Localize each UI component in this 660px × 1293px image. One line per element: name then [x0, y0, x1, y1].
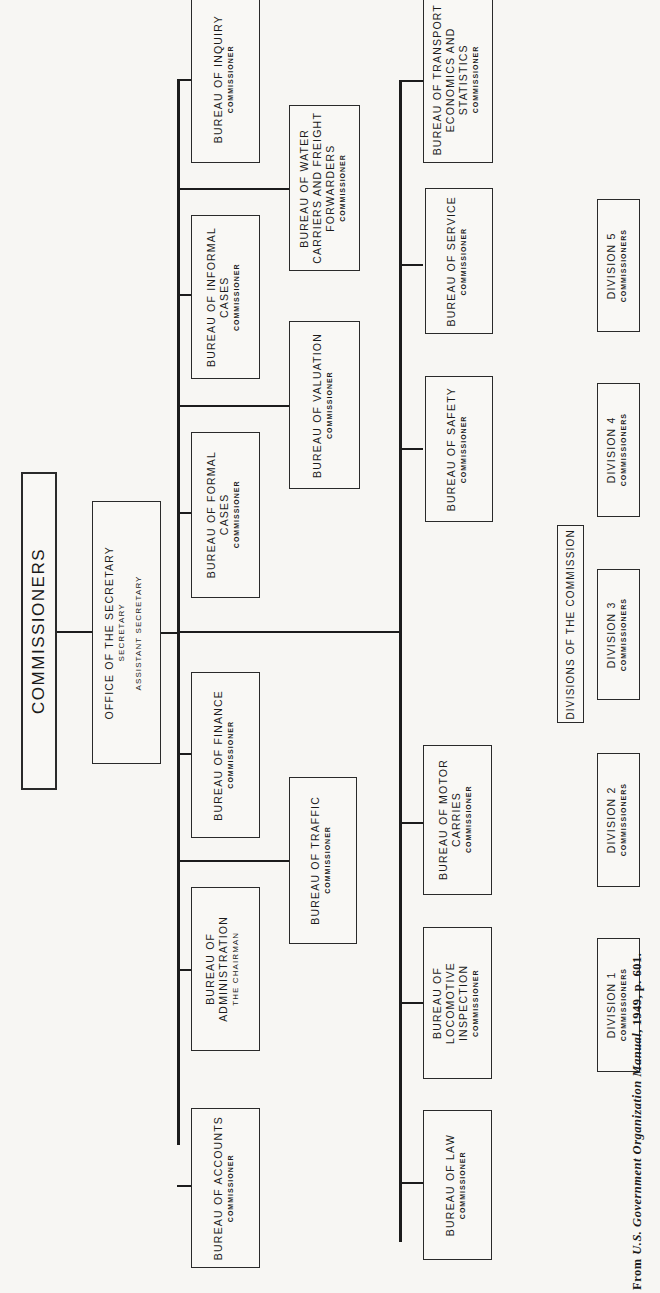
trunk-tier1 [177, 79, 180, 1145]
bureau-locomotive-label-1: BUREAU OF [431, 967, 444, 1039]
branch-valuation [177, 405, 289, 407]
bureau-admin-head: THE CHAIRMAN [230, 932, 242, 1006]
division-3-label: DIVISION 3 [605, 601, 618, 668]
branch-traffic [177, 860, 289, 862]
division-5-members: COMMISSIONERS [618, 229, 629, 302]
org-chart: COMMISSIONERS OFFICE OF THE SECRETARY SE… [0, 0, 660, 1293]
stub-finance [177, 753, 192, 755]
bureau-admin-label-2: ADMINISTRATION [217, 916, 230, 1022]
divisions-title: DIVISIONS OF THE COMMISSION [564, 529, 577, 720]
connector-secretary-trunk [160, 632, 178, 634]
stub-transport [399, 80, 423, 82]
stub-informal [177, 294, 192, 296]
division-2-members: COMMISSIONERS [618, 783, 629, 856]
division-2-box: DIVISION 2 COMMISSIONERS [597, 753, 640, 887]
bureau-valuation-label: BUREAU OF VALUATION [311, 333, 324, 478]
stub-motor [399, 822, 423, 824]
bureau-informal-label-2: CASES [218, 276, 231, 318]
bureau-finance-box: BUREAU OF FINANCE COMMISSIONER [191, 672, 260, 838]
bureau-safety-box: BUREAU OF SAFETY COMMISSIONER [425, 376, 493, 522]
secretary-officer-1: SECRETARY [116, 603, 128, 661]
bureau-locomotive-label-2: LOCOMOTIVE [444, 962, 457, 1044]
division-1-members: COMMISSIONERS [618, 968, 629, 1041]
bureau-transport-label-2: ECONOMICS AND [444, 27, 457, 132]
stub-inquiry [177, 79, 192, 81]
bureau-admin-label-1: BUREAU OF [204, 933, 217, 1005]
bureau-informal-head: COMMISSIONER [231, 263, 242, 331]
division-4-box: DIVISION 4 COMMISSIONERS [597, 383, 640, 517]
bureau-motor-label-2: CARRIES [450, 792, 463, 847]
caption-suffix: , 1949, p. 601. [630, 953, 644, 1033]
bureau-finance-label: BUREAU OF FINANCE [212, 690, 225, 821]
bureau-service-head: COMMISSIONER [458, 227, 469, 295]
stub-formal [177, 512, 192, 514]
bureau-valuation-box: BUREAU OF VALUATION COMMISSIONER [289, 321, 360, 489]
bureau-informal-cases-box: BUREAU OF INFORMAL CASES COMMISSIONER [191, 215, 260, 379]
bureau-informal-label-1: BUREAU OF INFORMAL [205, 227, 218, 367]
bureau-valuation-head: COMMISSIONER [324, 371, 335, 439]
division-3-members: COMMISSIONERS [618, 598, 629, 671]
stub-law [399, 1182, 423, 1184]
bureau-formal-head: COMMISSIONER [231, 481, 242, 549]
source-caption: From U.S. Government Organization Manual… [630, 953, 645, 1290]
secretary-title: OFFICE OF THE SECRETARY [103, 546, 116, 719]
bureau-transport-economics-box: BUREAU OF TRANSPORT ECONOMICS AND STATIS… [423, 0, 493, 163]
bureau-formal-label-1: BUREAU OF FORMAL [205, 451, 218, 578]
bureau-administration-box: BUREAU OF ADMINISTRATION THE CHAIRMAN [191, 887, 260, 1051]
division-2-label: DIVISION 2 [605, 787, 618, 854]
division-4-label: DIVISION 4 [605, 417, 618, 484]
bureau-water-label-2: CARRIERS AND FREIGHT [311, 112, 324, 264]
bureau-traffic-label: BUREAU OF TRAFFIC [309, 796, 322, 925]
stub-service [399, 264, 423, 266]
bureau-traffic-box: BUREAU OF TRAFFIC COMMISSIONER [289, 777, 357, 944]
bureau-accounts-label: BUREAU OF ACCOUNTS [212, 1116, 225, 1260]
secretary-officer-2: ASSISTANT SECRETARY [133, 575, 145, 690]
commissioners-label: COMMISSIONERS [29, 548, 49, 714]
commissioners-box: COMMISSIONERS [21, 472, 57, 790]
bureau-formal-label-2: CASES [218, 494, 231, 536]
stub-safety [399, 448, 423, 450]
bureau-water-carriers-box: BUREAU OF WATER CARRIERS AND FREIGHT FOR… [289, 105, 360, 271]
bureau-service-label: BUREAU OF SERVICE [445, 196, 458, 326]
bureau-water-head: COMMISSIONER [337, 154, 348, 222]
bureau-motor-carries-box: BUREAU OF MOTOR CARRIES COMMISSIONER [423, 745, 492, 895]
bureau-finance-head: COMMISSIONER [225, 721, 236, 789]
bureau-inquiry-label: BUREAU OF INQUIRY [212, 15, 225, 143]
bureau-law-label: BUREAU OF LAW [444, 1134, 457, 1236]
bureau-transport-label-1: BUREAU OF TRANSPORT [431, 4, 444, 155]
caption-prefix: From [630, 1255, 644, 1290]
stub-admin [177, 969, 192, 971]
connector-commissioners-secretary [56, 631, 92, 633]
office-of-secretary-box: OFFICE OF THE SECRETARY SECRETARY ASSIST… [92, 501, 161, 764]
stub-accounts [177, 1185, 192, 1187]
division-3-box: DIVISION 3 COMMISSIONERS [597, 569, 640, 700]
bureau-locomotive-label-3: INSPECTION [457, 965, 470, 1041]
bureau-formal-cases-box: BUREAU OF FORMAL CASES COMMISSIONER [191, 432, 260, 598]
bureau-transport-label-3: STATISTICS [457, 44, 470, 115]
branch-main-to-tier3 [177, 631, 401, 633]
division-4-members: COMMISSIONERS [618, 413, 629, 486]
bureau-motor-label-1: BUREAU OF MOTOR [437, 759, 450, 880]
division-1-label: DIVISION 1 [605, 972, 618, 1039]
caption-source-title: U.S. Government Organization Manual [630, 1033, 644, 1255]
branch-water [177, 188, 289, 190]
bureau-law-box: BUREAU OF LAW COMMISSIONER [423, 1110, 492, 1260]
division-5-box: DIVISION 5 COMMISSIONERS [597, 199, 640, 332]
bureau-water-label-1: BUREAU OF WATER [298, 129, 311, 248]
bureau-inquiry-box: BUREAU OF INQUIRY COMMISSIONER [191, 0, 260, 163]
bureau-inquiry-head: COMMISSIONER [225, 46, 236, 114]
bureau-law-head: COMMISSIONER [457, 1151, 468, 1219]
bureau-accounts-head: COMMISSIONER [225, 1154, 236, 1222]
divisions-title-box: DIVISIONS OF THE COMMISSION [557, 525, 584, 723]
bureau-safety-label: BUREAU OF SAFETY [445, 387, 458, 511]
bureau-accounts-box: BUREAU OF ACCOUNTS COMMISSIONER [191, 1108, 260, 1268]
bureau-motor-head: COMMISSIONER [463, 786, 474, 854]
bureau-transport-head: COMMISSIONER [470, 46, 481, 114]
bureau-water-label-3: FORWARDERS [324, 144, 337, 231]
bureau-safety-head: COMMISSIONER [458, 415, 469, 483]
bureau-service-box: BUREAU OF SERVICE COMMISSIONER [425, 188, 493, 334]
bureau-locomotive-inspection-box: BUREAU OF LOCOMOTIVE INSPECTION COMMISSI… [423, 927, 492, 1079]
stub-locomotive [399, 1002, 423, 1004]
bureau-locomotive-head: COMMISSIONER [470, 969, 481, 1037]
bureau-traffic-head: COMMISSIONER [322, 827, 333, 895]
